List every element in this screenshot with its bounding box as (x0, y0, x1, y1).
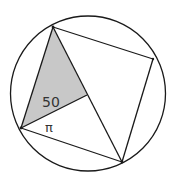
vertex-left (20, 127, 23, 130)
angle-label-pi: π (45, 120, 53, 135)
inscribed-quadrilateral-diagram: 50 π (0, 0, 171, 182)
side-right-bottom (122, 59, 153, 162)
side-top-right (53, 27, 153, 59)
vertex-bottom (121, 161, 124, 164)
angle-label-50: 50 (42, 94, 60, 110)
shaded-triangle (21, 27, 87, 128)
vertex-right (152, 58, 154, 60)
vertex-top (52, 26, 55, 29)
